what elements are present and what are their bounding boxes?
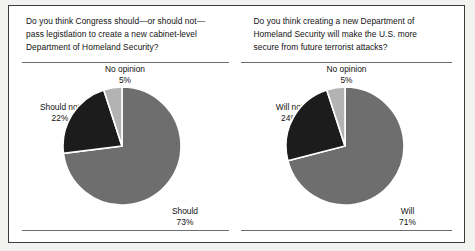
slice-label-no-opinion-name: No opinion [326, 64, 366, 74]
panel-congress-legislation: Do you think Congress should—or should n… [9, 6, 237, 242]
pie-svg [60, 84, 184, 208]
pie-chart-congress-legislation [60, 84, 184, 208]
slice-label-should-pct: 73% [150, 217, 220, 228]
slice-label-will: Will 71% [373, 206, 443, 229]
question-line-1: Do you think Congress should—or should n… [26, 15, 227, 28]
slice-label-should: Should 73% [150, 206, 220, 229]
question-line-3: Department of Homeland Security? [26, 41, 227, 54]
divider-rule-bottom [22, 230, 229, 231]
divider-rule-bottom [241, 230, 453, 231]
figure-frame: Do you think Congress should—or should n… [8, 5, 465, 243]
panel-more-secure: Do you think creating a new Department o… [237, 6, 465, 242]
question-line-2: pass legistlation to create a new cabine… [26, 28, 227, 41]
question-line-1: Do you think creating a new Department o… [254, 15, 455, 28]
question-line-2: Homeland Security will make the U.S. mor… [254, 28, 455, 41]
divider-rule-top [22, 62, 229, 63]
pie-slices [63, 87, 181, 205]
slice-label-no-opinion-name: No opinion [105, 64, 145, 74]
pie-svg [283, 84, 407, 208]
question-line-3: secure from future terrorist attacks? [254, 41, 455, 54]
divider-rule-top [241, 62, 453, 63]
question-text: Do you think Congress should—or should n… [26, 15, 227, 55]
pie-slices [285, 87, 403, 205]
question-text: Do you think creating a new Department o… [254, 15, 455, 55]
poll-figure: Do you think Congress should—or should n… [0, 0, 475, 251]
slice-label-will-pct: 71% [373, 217, 443, 228]
pie-chart-more-secure [283, 84, 407, 208]
